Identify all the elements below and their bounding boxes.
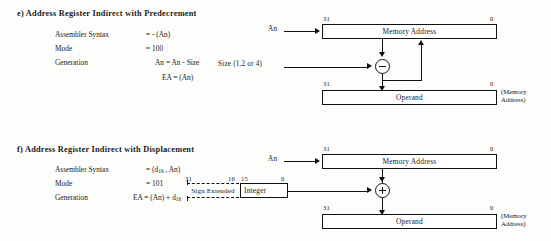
section-e-spec-label-2: Generation xyxy=(55,58,88,67)
section-f-spec-value-0: = (d16 , An) xyxy=(146,165,180,174)
section-e-size-arrowhead xyxy=(367,63,372,69)
section-e-memory-address-label: Memory Address xyxy=(383,27,437,36)
section-e-minus-operator-icon xyxy=(375,59,390,74)
section-e-spec-value-0: = - (An) xyxy=(146,30,170,39)
section-e-an-line xyxy=(284,31,316,32)
section-f-integer-arrowhead xyxy=(367,187,372,193)
section-f-memory-address-note: (Memory Address) xyxy=(501,212,527,229)
section-e-spec-label-0: Assembler Syntax xyxy=(55,30,109,39)
section-f-sign-extended-cap-top xyxy=(187,180,188,185)
section-e-memory-address-note: (Memory Address) xyxy=(501,88,527,105)
section-f-spec-label-2: Generation xyxy=(55,193,88,202)
section-e-memory-address-box: Memory Address xyxy=(322,24,497,39)
section-f-integer-label: Integer xyxy=(244,186,266,195)
section-f-sign-extended-label: Sign Extended xyxy=(191,187,235,195)
section-e-operand-label: Operand xyxy=(396,93,423,102)
section-e-spec-value-3: EA = (An) xyxy=(162,73,193,82)
section-e-note-line-2: Address) xyxy=(501,96,527,104)
section-e-note-line-1: (Memory xyxy=(501,88,527,96)
section-e-lower-bit-right: 0 xyxy=(490,80,494,87)
section-f-integer-line xyxy=(288,191,368,192)
section-f-disp-bit-15: 15 xyxy=(241,175,248,182)
section-f-integer-box: Integer xyxy=(240,183,288,198)
section-f-sign-extended-cap-bottom xyxy=(187,196,188,201)
section-f-note-line-2: Address) xyxy=(501,220,527,228)
section-f-spec-label-1: Mode xyxy=(55,179,72,188)
section-f-an-label: An xyxy=(268,155,277,163)
section-e-spec-value-2: An = An - Size xyxy=(155,58,199,67)
section-f-an-line xyxy=(284,161,316,162)
section-f-drop-arrowhead xyxy=(379,177,385,182)
section-e-feedback-arrowhead xyxy=(418,40,424,45)
section-e-upper-bit-right: 0 xyxy=(490,15,494,22)
section-e-an-label: An xyxy=(268,25,277,33)
section-f-an-arrowhead xyxy=(315,158,320,164)
section-f-upper-bit-right: 0 xyxy=(490,145,494,152)
section-f-disp-bit-16: 16 xyxy=(228,175,235,182)
section-f-note-line-1: (Memory xyxy=(501,212,527,220)
section-e-drop-arrowhead xyxy=(379,52,385,57)
section-f-lower-bit-right: 0 xyxy=(490,204,494,211)
section-e-feedback-vertical xyxy=(421,45,422,80)
section-e-size-line xyxy=(284,67,368,68)
section-e-an-arrowhead xyxy=(315,28,320,34)
diagram-sheet: e) Address Register Indirect with Predec… xyxy=(0,0,551,241)
section-e-spec-label-1: Mode xyxy=(55,44,72,53)
section-f-lower-bit-left: 31 xyxy=(323,204,330,211)
section-e-feedback-horizontal xyxy=(382,80,422,81)
section-f-spec-value-2: EA = (An) + d16 xyxy=(133,193,181,202)
section-e-heading: e) Address Register Indirect with Predec… xyxy=(17,9,197,18)
section-f-plus-operator-icon xyxy=(375,183,390,198)
section-e-operand-box: Operand xyxy=(322,90,497,105)
section-f-operand-label: Operand xyxy=(396,217,423,226)
section-e-spec-value-1: = 100 xyxy=(146,44,163,53)
section-f-disp-bit-0: 0 xyxy=(281,175,285,182)
section-e-upper-bit-left: 31 xyxy=(323,15,330,22)
section-f-upper-bit-left: 31 xyxy=(323,145,330,152)
section-f-memory-address-label: Memory Address xyxy=(383,157,437,166)
section-f-heading: f) Address Register Indirect with Displa… xyxy=(17,145,194,154)
section-f-memory-address-box: Memory Address xyxy=(322,154,497,169)
section-f-spec-label-0: Assembler Syntax xyxy=(55,165,109,174)
section-e-size-label: Size (1,2 or 4) xyxy=(218,60,262,68)
section-e-lower-bit-left: 31 xyxy=(323,80,330,87)
section-f-sign-extended-field: Sign Extended xyxy=(187,183,239,198)
section-f-operand-box: Operand xyxy=(322,214,497,229)
section-f-spec-value-1: = 101 xyxy=(146,179,163,188)
